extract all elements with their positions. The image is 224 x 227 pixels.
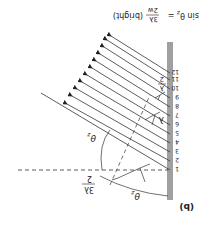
formula-note: (bright) — [113, 11, 143, 20]
lambda-brace — [145, 112, 160, 125]
source-1: 1 — [175, 166, 179, 173]
formula-lhs: sin θz = — [168, 10, 199, 20]
three-lambda-half-num: 3λ — [84, 185, 94, 194]
path-difference-brace — [112, 164, 150, 182]
source-2: 2 — [175, 157, 179, 164]
theta-z-lower: θz — [130, 190, 140, 201]
source-4: 4 — [175, 139, 179, 146]
source-5: 5 — [175, 130, 179, 137]
source-10: 10 — [171, 85, 179, 92]
lambda-half-num: λ — [160, 84, 164, 92]
diffraction-diagram: (b) sin θz = 3λ 2w (bright) 1 2 3 4 5 6 … — [0, 0, 224, 227]
source-11: 11 — [171, 76, 179, 83]
source-3: 3 — [175, 148, 179, 155]
panel-label: (b) — [179, 202, 194, 212]
source-6: 6 — [175, 121, 179, 128]
theta-arc-upper — [101, 130, 110, 170]
source-8: 8 — [175, 103, 179, 110]
source-7: 7 — [175, 112, 179, 119]
source-9: 9 — [175, 94, 179, 101]
slit-wall — [167, 42, 173, 200]
lambda-label: λ — [158, 115, 164, 125]
three-lambda-half-den: 2 — [87, 174, 92, 183]
theta-z-upper: θz — [86, 132, 96, 143]
source-12: 12 — [171, 69, 179, 76]
rays — [41, 36, 170, 170]
lambda-half-den: 2 — [160, 75, 164, 83]
formula-numerator: 3λ — [149, 15, 158, 23]
wavefront-dashed-line — [110, 95, 150, 185]
formula-denominator: 2w — [148, 6, 158, 14]
